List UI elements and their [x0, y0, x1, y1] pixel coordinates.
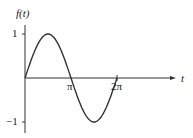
x-axis-arrow-icon: [170, 76, 176, 80]
y-axis-label: f(t): [16, 7, 30, 20]
y-tick-label-1: 1: [12, 27, 18, 39]
x-tick-label-2pi: 2π: [111, 80, 123, 92]
x-axis-label: t: [181, 72, 185, 84]
y-tick-label-neg1: −1: [6, 115, 18, 127]
chart: f(t) 1 −1 π 2π t: [0, 0, 193, 138]
x-tick-label-pi: π: [67, 80, 73, 92]
